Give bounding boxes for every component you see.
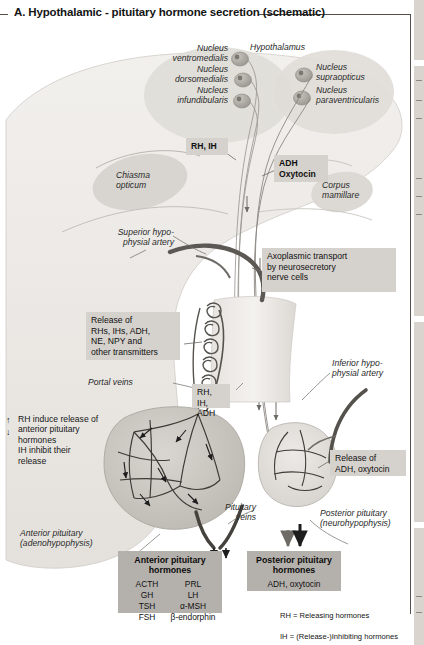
label-corpus-mamillare: Corpus mamillare <box>322 180 359 201</box>
label-nucleus-supraopticus: Nucleus supraopticus <box>316 62 365 83</box>
label-nucleus-paraventricularis: Nucleus paraventricularis <box>316 85 379 106</box>
anterior-pituitary-hormones-panel: Anterior pituitary hormones ACTH PRL GH … <box>118 551 222 613</box>
posterior-release-arrows <box>288 524 300 546</box>
anterior-panel-title: Anterior pituitary hormones <box>124 555 216 576</box>
label-nucleus-ventromedialis: Nucleus ventromedialis <box>150 43 228 64</box>
anterior-hormone-grid: ACTH PRL GH LH TSH α-MSH FSH β-endorphin <box>124 579 216 623</box>
note-rh-induce-release: RH induce release of anterior pituitary … <box>18 414 118 466</box>
legend-line-ih: IH = (Release-)Inhibiting hormones <box>280 632 398 643</box>
arrow-down-glyph: ↓ <box>6 427 11 438</box>
label-portal-veins: Portal veins <box>88 377 133 387</box>
posterior-pituitary-hormones-panel: Posterior pituitary hormones ADH, oxytoc… <box>247 551 341 591</box>
label-superior-hypophysial-artery: Superior hypo- physial artery <box>92 227 174 248</box>
figure-page: A. Hypothalamic - pituitary hormone secr… <box>0 0 424 645</box>
callout-axoplasmic-transport: Axoplasmic transport by neurosecretory n… <box>262 248 396 292</box>
hormone-cell: GH <box>124 590 170 600</box>
posterior-panel-title: Posterior pituitary hormones <box>253 555 335 576</box>
callout-rh-ih: RH, IH <box>186 138 228 155</box>
label-chiasma-opticum: Chiasma opticum <box>116 170 150 191</box>
callout-release-adh-oxytocin: Release of ADH, oxytocin <box>330 450 406 476</box>
label-nucleus-infundibularis: Nucleus infundibularis <box>150 85 228 106</box>
label-inferior-hypophysial-artery: Inferior hypo- physial artery <box>332 358 383 379</box>
posterior-hormone-list: ADH, oxytocin <box>253 579 335 589</box>
label-posterior-pituitary: Posterior pituitary (neurohypophysis) <box>320 508 391 529</box>
legend-line-rh: RH = Releasing hormones <box>280 611 398 622</box>
hormone-cell: LH <box>170 590 216 600</box>
posterior-pituitary-lobe <box>258 423 337 507</box>
hormone-cell: ACTH <box>124 579 170 589</box>
callout-adh-oxytocin: ADH Oxytocin <box>274 155 328 182</box>
label-pituitary-veins: Pituitary veins <box>200 502 256 523</box>
hormone-cell: FSH <box>124 612 170 622</box>
hormone-cell: PRL <box>170 579 216 589</box>
label-anterior-pituitary: Anterior pituitary (adenohypophysis) <box>20 528 93 549</box>
legend: RH = Releasing hormones IH = (Release-)I… <box>280 600 398 645</box>
arrow-up-glyph: ↑ <box>6 415 11 426</box>
label-nucleus-dorsomedialis: Nucleus dorsomedialis <box>150 64 228 85</box>
callout-release-of-rhs: Release of RHs, IHs, ADH, NE, NPY and ot… <box>86 312 180 360</box>
callout-rh-ih-adh: RH, IH, ADH <box>192 384 230 408</box>
hormone-cell: TSH <box>124 601 170 611</box>
hormone-cell: β-endorphin <box>170 612 216 622</box>
hormone-cell: α-MSH <box>170 601 216 611</box>
label-hypothalamus: Hypothalamus <box>250 42 305 52</box>
